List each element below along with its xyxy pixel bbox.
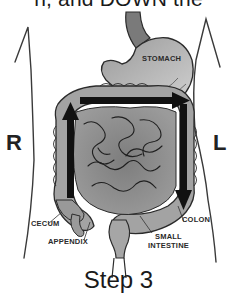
rectum	[109, 220, 130, 258]
small-intestine	[74, 107, 177, 215]
cecum-label: CECUM	[31, 219, 60, 228]
small-intestine-label-line1: SMALL	[148, 232, 189, 241]
appendix-label: APPENDIX	[48, 237, 88, 246]
caption-bottom: Step 3	[0, 266, 237, 294]
stomach-label: STOMACH	[142, 54, 181, 63]
small-intestine-label: SMALL INTESTINE	[148, 232, 189, 250]
colon-label: COLON	[182, 215, 210, 224]
right-side-label: R	[6, 130, 22, 156]
small-intestine-label-line2: INTESTINE	[148, 241, 189, 250]
left-side-label: L	[213, 130, 226, 156]
